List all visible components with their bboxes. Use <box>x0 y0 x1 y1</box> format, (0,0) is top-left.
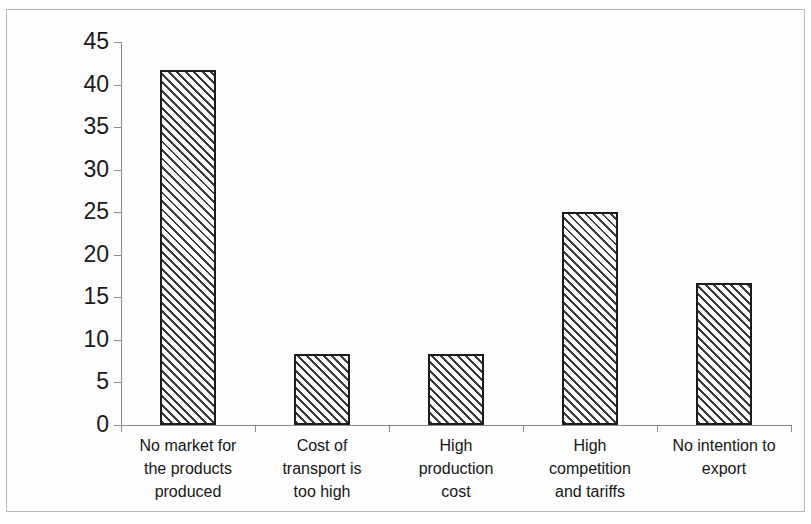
y-axis-tick-label: 40 <box>49 73 109 96</box>
y-axis-tick-label: 35 <box>49 115 109 138</box>
x-axis-category-label-line: High <box>523 434 657 457</box>
y-axis-tick-mark <box>114 212 121 213</box>
y-axis-tick-label: 0 <box>49 413 109 436</box>
bar <box>696 283 752 425</box>
y-axis-tick-mark <box>114 297 121 298</box>
x-axis-category-label-line: export <box>657 457 791 480</box>
bar <box>160 70 216 425</box>
y-axis-tick-label: 45 <box>49 30 109 53</box>
y-axis-line <box>121 42 122 425</box>
y-axis-tick-mark <box>114 425 121 426</box>
x-axis-category-label-line: No intention to <box>657 434 791 457</box>
x-axis-category-label-line: the products <box>121 457 255 480</box>
y-axis-tick-label: 10 <box>49 328 109 351</box>
x-axis-category-label-line: and tariffs <box>523 480 657 503</box>
y-axis-tick-mark <box>114 127 121 128</box>
y-axis-tick-mark <box>114 255 121 256</box>
bar <box>294 354 350 425</box>
x-axis-category-label: Highproductioncost <box>389 434 523 504</box>
y-axis-tick-label: 5 <box>49 370 109 393</box>
x-axis-category-label-line: too high <box>255 480 389 503</box>
bar <box>428 354 484 425</box>
y-axis-tick-label: 30 <box>49 158 109 181</box>
x-axis-category-label-line: produced <box>121 480 255 503</box>
y-axis-tick-label: 15 <box>49 285 109 308</box>
x-axis-category-label-line: High <box>389 434 523 457</box>
bar-chart: 051015202530354045 No market forthe prod… <box>0 0 811 524</box>
x-axis-category-label-line: competition <box>523 457 657 480</box>
x-axis-category-label-line: No market for <box>121 434 255 457</box>
y-axis-tick-mark <box>114 42 121 43</box>
y-axis-tick-mark <box>114 170 121 171</box>
bar <box>562 212 618 425</box>
x-axis-tick-mark <box>791 425 792 432</box>
x-axis-category-label-line: transport is <box>255 457 389 480</box>
x-axis-tick-mark <box>523 425 524 432</box>
x-axis-category-label-line: cost <box>389 480 523 503</box>
x-axis-category-label: Highcompetitionand tariffs <box>523 434 657 504</box>
x-axis-category-label: Cost oftransport istoo high <box>255 434 389 504</box>
x-axis-tick-mark <box>121 425 122 432</box>
y-axis-tick-label: 25 <box>49 200 109 223</box>
y-axis-tick-mark <box>114 382 121 383</box>
y-axis-tick-mark <box>114 85 121 86</box>
y-axis-tick-mark <box>114 340 121 341</box>
x-axis-category-label: No market forthe productsproduced <box>121 434 255 504</box>
x-axis-category-label: No intention toexport <box>657 434 791 480</box>
x-axis-tick-mark <box>657 425 658 432</box>
x-axis-category-label-line: Cost of <box>255 434 389 457</box>
y-axis-tick-label: 20 <box>49 243 109 266</box>
x-axis-tick-mark <box>389 425 390 432</box>
x-axis-line <box>121 425 791 426</box>
x-axis-category-label-line: production <box>389 457 523 480</box>
x-axis-tick-mark <box>255 425 256 432</box>
